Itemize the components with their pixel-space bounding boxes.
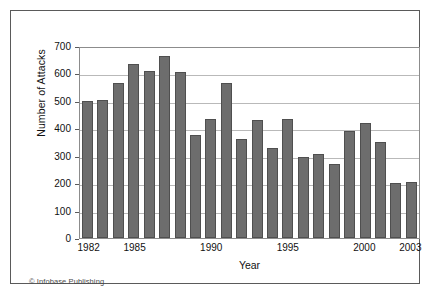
x-tick-label: 1985 [115, 242, 155, 253]
plot-area [79, 47, 420, 239]
y-tick-label: 100 [39, 207, 71, 217]
y-tick-label: 200 [39, 179, 71, 189]
bar [375, 142, 386, 238]
x-tick-label: 2003 [390, 242, 430, 253]
bar [298, 157, 309, 238]
y-tick-label: 300 [39, 152, 71, 162]
bar [329, 164, 340, 238]
bar [144, 71, 155, 238]
bar [360, 123, 371, 238]
bar [82, 101, 93, 238]
bar [190, 135, 201, 238]
y-tick-mark [75, 184, 79, 185]
x-tick-label: 1995 [268, 242, 308, 253]
figure-canvas: 0100200300400500600700 Number of Attacks… [0, 0, 433, 304]
bar [390, 183, 401, 238]
y-tick-label: 0 [39, 234, 71, 244]
credit-line: © Infobase Publishing [29, 277, 104, 286]
figure-frame: 0100200300400500600700 Number of Attacks… [10, 10, 420, 284]
bar [267, 148, 278, 239]
y-tick-mark [75, 129, 79, 130]
bar [128, 64, 139, 238]
bar [406, 182, 417, 238]
bar [221, 83, 232, 238]
bar [252, 120, 263, 238]
y-tick-mark [75, 74, 79, 75]
bar [313, 154, 324, 238]
bar [113, 83, 124, 238]
bar [344, 131, 355, 238]
y-tick-mark [75, 157, 79, 158]
bar [97, 100, 108, 239]
bar [236, 139, 247, 238]
bar-series [80, 48, 419, 238]
bar [159, 56, 170, 238]
y-tick-mark [75, 212, 79, 213]
y-tick-mark [75, 47, 79, 48]
x-tick-label: 1990 [191, 242, 231, 253]
x-axis-title: Year [79, 259, 420, 271]
x-tick-label: 2000 [344, 242, 384, 253]
x-tick-label: 1982 [69, 242, 109, 253]
y-tick-mark [75, 102, 79, 103]
y-tick-mark [75, 239, 79, 240]
bar [205, 119, 216, 238]
y-axis-title: Number of Attacks [35, 33, 47, 153]
bar [175, 72, 186, 238]
bar [282, 119, 293, 238]
